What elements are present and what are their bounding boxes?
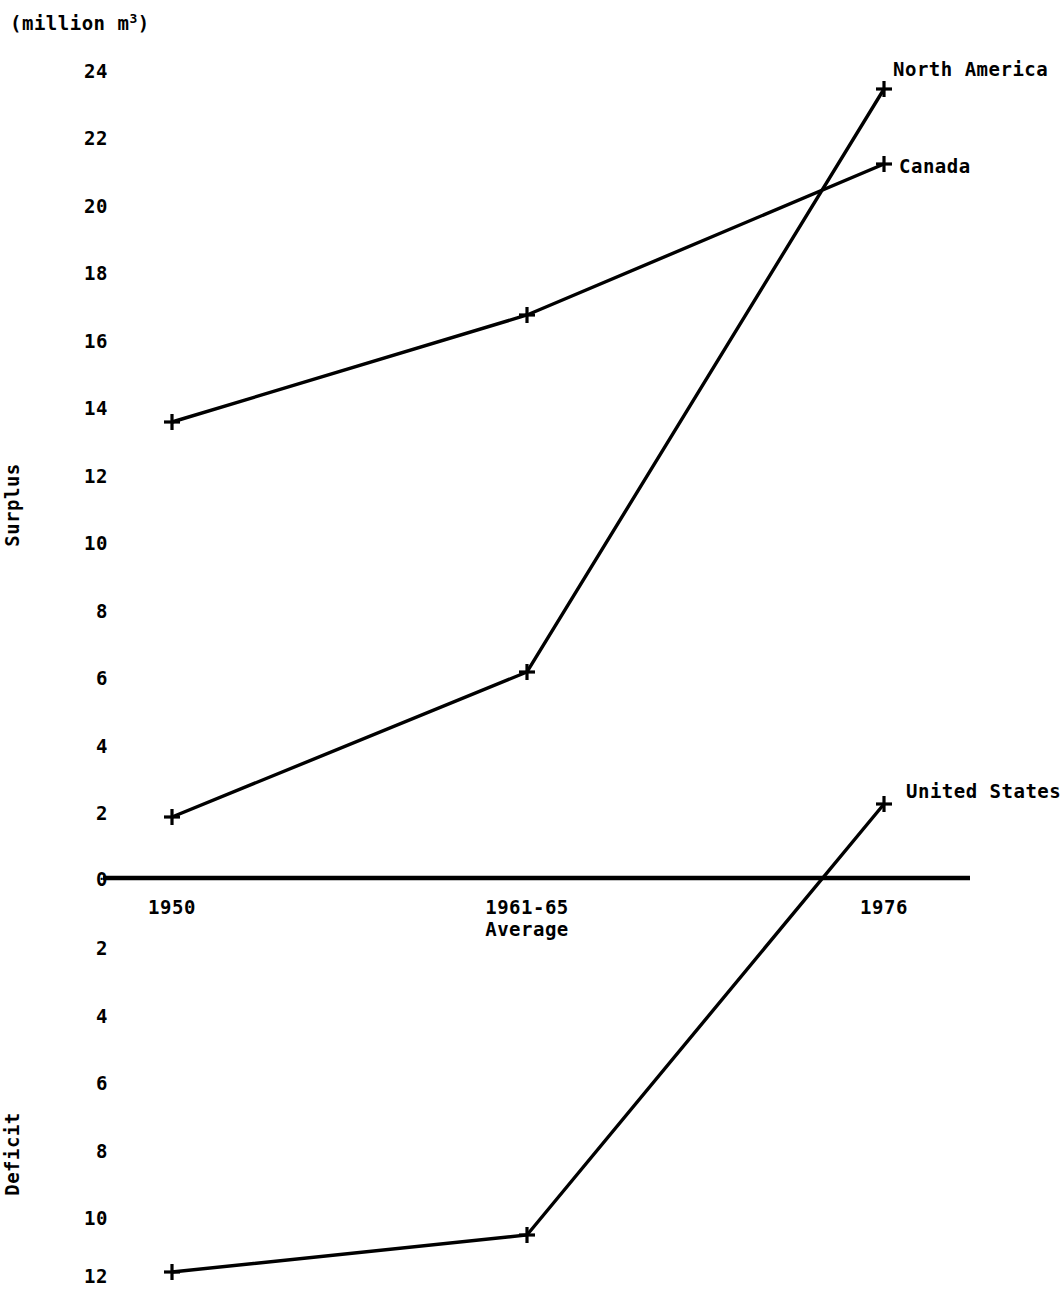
series-line-canada [172,164,884,422]
chart-canvas: (million m3) 24 22 20 18 16 14 12 10 8 6… [0,0,1062,1294]
marker-canada-1976 [876,156,892,172]
marker-canada-1950 [164,414,180,430]
marker-united-states-1950 [164,1264,180,1280]
plot-area [0,0,1062,1294]
marker-canada-1961-65 [519,307,535,323]
marker-north-america-1976 [876,81,892,97]
marker-north-america-1950 [164,809,180,825]
series-line-united-states [172,804,884,1272]
data-point-markers [164,81,892,1280]
marker-north-america-1961-65 [519,664,535,680]
series-line-north-america [172,89,884,817]
